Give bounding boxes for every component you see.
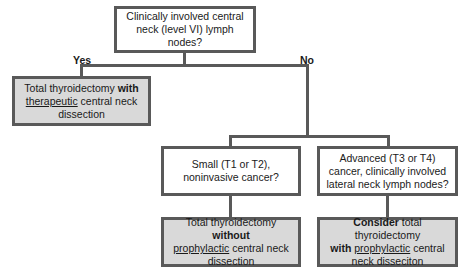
right-outcome-box: Consider total thyroidectomy with prophy…	[317, 217, 458, 267]
root-question-box: Clinically involved central neck (level …	[114, 6, 256, 53]
connector-left-outcome-down	[229, 196, 232, 218]
connector-horizontal-top	[80, 64, 309, 67]
small-cancer-question-text: Small (T1 or T2), noninvasive cancer?	[170, 158, 292, 184]
yes-label: Yes	[73, 54, 91, 66]
advanced-cancer-question-box: Advanced (T3 or T4) cancer, clinically i…	[317, 146, 458, 196]
right-outcome-text: Consider total thyroidectomy with prophy…	[326, 216, 449, 268]
no-label: No	[300, 54, 314, 66]
root-question-text: Clinically involved central neck (level …	[123, 10, 247, 49]
connector-right-outcome-down	[386, 196, 389, 218]
connector-no-horizontal	[229, 135, 390, 138]
left-outcome-text: Total thyroidectomy without prophylactic…	[170, 216, 292, 268]
left-outcome-box: Total thyroidectomy without prophylactic…	[161, 217, 301, 267]
small-cancer-question-box: Small (T1 or T2), noninvasive cancer?	[161, 146, 301, 196]
advanced-cancer-question-text: Advanced (T3 or T4) cancer, clinically i…	[326, 152, 449, 191]
yes-outcome-box: Total thyroidectomy with therapeutic cen…	[12, 76, 151, 126]
connector-no-down	[306, 64, 309, 136]
yes-outcome-text: Total thyroidectomy with therapeutic cen…	[21, 82, 142, 121]
